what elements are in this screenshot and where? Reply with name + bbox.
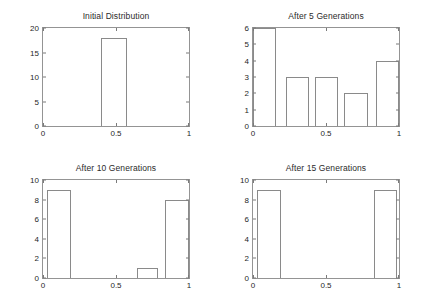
y-axis-tick-mark	[396, 238, 399, 239]
x-axis-tick-mark	[188, 180, 189, 183]
y-axis-tick-mark	[43, 52, 46, 53]
y-axis-tick-mark	[43, 238, 46, 239]
x-axis-tick-label: 0.5	[320, 129, 331, 138]
y-axis-tick-label: 4	[245, 234, 249, 243]
x-axis-tick-label: 0	[41, 129, 45, 138]
y-axis-tick-label: 0	[35, 274, 39, 283]
x-axis-tick-mark	[253, 28, 254, 31]
y-axis-tick-label: 0	[35, 122, 39, 131]
y-axis-tick-mark	[396, 219, 399, 220]
y-axis-tick-label: 10	[30, 176, 39, 185]
x-axis-tick-mark	[253, 123, 254, 126]
x-axis-tick-mark	[188, 275, 189, 278]
y-axis-tick-mark	[253, 60, 256, 61]
x-axis-tick-mark	[398, 180, 399, 183]
x-axis-tick-label: 1	[187, 281, 191, 290]
y-axis-tick-mark	[43, 199, 46, 200]
plot-area	[253, 180, 399, 278]
subplot-initial-distribution: Initial Distribution 0510152000.51	[0, 0, 210, 152]
x-axis-tick-mark	[116, 180, 117, 183]
x-axis-tick-label: 1	[397, 281, 401, 290]
x-axis-tick-mark	[116, 123, 117, 126]
y-axis-tick-mark	[396, 93, 399, 94]
y-axis-tick-mark	[253, 77, 256, 78]
y-axis-tick-mark	[186, 52, 189, 53]
y-axis-tick-mark	[186, 219, 189, 220]
x-axis-tick-mark	[116, 275, 117, 278]
y-axis-tick-mark	[186, 199, 189, 200]
subplot-after-10-generations: After 10 Generations 024681000.51	[0, 152, 210, 304]
y-axis-tick-label: 2	[245, 254, 249, 263]
x-axis-tick-label: 0.5	[110, 281, 121, 290]
x-axis-tick-mark	[326, 123, 327, 126]
page-title: Initial Distribution	[42, 11, 190, 21]
subplot-after-5-generations: After 5 Generations 012345600.51	[210, 0, 420, 152]
y-axis-tick-label: 0	[245, 122, 249, 131]
y-axis-tick-label: 5	[245, 40, 249, 49]
x-axis-tick-mark	[398, 275, 399, 278]
y-axis-tick-mark	[396, 77, 399, 78]
subplot-after-15-generations: After 15 Generations 024681000.51	[210, 152, 420, 304]
x-axis-tick-mark	[43, 123, 44, 126]
y-axis-tick-mark	[186, 101, 189, 102]
y-axis-tick-label: 20	[30, 24, 39, 33]
x-axis-tick-label: 0	[251, 129, 255, 138]
y-axis-tick-label: 3	[245, 73, 249, 82]
y-axis-tick-mark	[253, 258, 256, 259]
y-axis-tick-label: 4	[35, 234, 39, 243]
y-axis-tick-label: 1	[245, 105, 249, 114]
y-axis-tick-mark	[396, 109, 399, 110]
x-axis-tick-mark	[253, 275, 254, 278]
y-axis-tick-mark	[253, 93, 256, 94]
y-axis-tick-label: 15	[30, 48, 39, 57]
x-axis-tick-mark	[326, 275, 327, 278]
page-title: After 5 Generations	[252, 11, 400, 21]
histogram-bar	[137, 268, 158, 278]
x-axis-tick-label: 1	[397, 129, 401, 138]
x-axis-tick-mark	[43, 275, 44, 278]
x-axis-tick-mark	[116, 28, 117, 31]
figure-canvas: Initial Distribution 0510152000.51 After…	[0, 0, 421, 305]
x-axis-tick-label: 0.5	[320, 281, 331, 290]
histogram-bar	[253, 28, 276, 126]
y-axis-tick-mark	[253, 44, 256, 45]
y-axis-tick-mark	[43, 101, 46, 102]
y-axis-tick-mark	[253, 238, 256, 239]
y-axis-tick-mark	[396, 199, 399, 200]
x-axis-tick-mark	[188, 123, 189, 126]
x-axis-tick-label: 0	[41, 281, 45, 290]
y-axis-tick-mark	[186, 77, 189, 78]
histogram-bar	[315, 77, 338, 126]
y-axis-tick-mark	[43, 219, 46, 220]
axes-box: 024681000.51	[42, 179, 190, 279]
y-axis-tick-label: 0	[245, 274, 249, 283]
axes-box: 0510152000.51	[42, 27, 190, 127]
page-title: After 10 Generations	[42, 163, 190, 173]
y-axis-tick-mark	[396, 60, 399, 61]
y-axis-tick-mark	[253, 109, 256, 110]
y-axis-tick-mark	[43, 77, 46, 78]
histogram-bar	[344, 93, 367, 126]
page-title: After 15 Generations	[252, 163, 400, 173]
histogram-bar	[257, 190, 280, 278]
plot-area	[43, 28, 189, 126]
y-axis-tick-label: 10	[240, 176, 249, 185]
y-axis-tick-label: 5	[35, 97, 39, 106]
y-axis-tick-label: 6	[245, 24, 249, 33]
axes-box: 012345600.51	[252, 27, 400, 127]
x-axis-tick-mark	[188, 28, 189, 31]
plot-area	[43, 180, 189, 278]
y-axis-tick-mark	[186, 258, 189, 259]
y-axis-tick-mark	[396, 44, 399, 45]
x-axis-tick-mark	[43, 180, 44, 183]
y-axis-tick-label: 4	[245, 56, 249, 65]
histogram-bar	[374, 190, 397, 278]
y-axis-tick-label: 2	[245, 89, 249, 98]
histogram-bar	[286, 77, 309, 126]
y-axis-tick-label: 10	[30, 73, 39, 82]
x-axis-tick-mark	[398, 123, 399, 126]
plot-area	[253, 28, 399, 126]
y-axis-tick-label: 8	[35, 195, 39, 204]
x-axis-tick-mark	[43, 28, 44, 31]
x-axis-tick-mark	[326, 28, 327, 31]
